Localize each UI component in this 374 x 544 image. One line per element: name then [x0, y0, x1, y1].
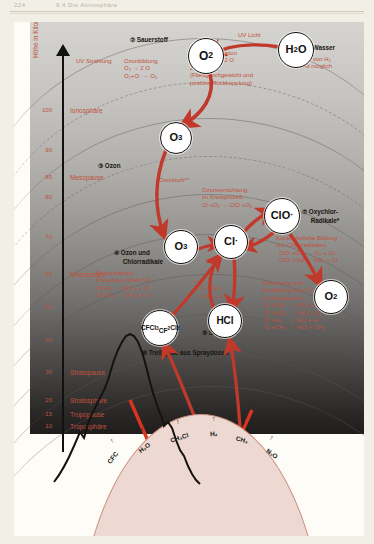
axis-tick-50: 50	[36, 304, 52, 310]
emission-arrow-icon: ↑	[212, 415, 216, 422]
annotation-hcl-oh: +++ HCl + OH· → H₂O + Cl·	[194, 278, 228, 300]
page-folio: 224	[14, 2, 26, 8]
molecule-clo-radical: ClO·	[264, 198, 300, 234]
page-header: 224 9.4 Die Atmosphäre	[0, 0, 374, 20]
axis-tick-70: 70	[36, 234, 52, 240]
layer-label-mesopause: Mesopause	[70, 174, 104, 181]
annotation-ozonbildung: Ozonbildung O₂ → 2 O O₂+O → O₃	[124, 58, 158, 80]
axis-tick-100: 100	[36, 107, 52, 113]
molecule-o3-upper: O3	[160, 122, 192, 154]
layer-label-troposphaere: Troposphäre	[70, 423, 107, 430]
annotation-uv-strahlung: UV Strahlung	[76, 58, 112, 65]
axis-tick-60: 60	[36, 271, 52, 277]
axis-tick-40: 40	[36, 337, 52, 343]
axis-tick-15: 15	[36, 411, 52, 417]
header-rule-thin	[10, 13, 364, 14]
axis-tick-90: 90	[36, 147, 52, 153]
axis-tick-85: 85	[36, 174, 52, 180]
molecule-o2-right: O2	[314, 280, 348, 314]
axis-tick-30: 30	[36, 369, 52, 375]
axis-tick-80: 80	[36, 194, 52, 200]
caption-treibgase: ⑥ Treibgase aus Spraydosen	[142, 349, 229, 356]
ozone-cycle-figure: Höhe in Kilometern 100 90 85 80 70 60 50…	[14, 22, 364, 536]
axis-tick-10: 10	[36, 423, 52, 429]
caption-ozon-chlorradikale: ④ Ozon und Chlorradikale	[114, 249, 163, 266]
molecule-cfc: CFCl3CF2Cl2	[142, 310, 178, 346]
molecule-cl-radical: Cl·	[214, 225, 248, 259]
caption-ozon: ③ Ozon	[98, 162, 121, 169]
molecule-h2o: H2O	[278, 32, 314, 68]
annotation-uv-licht: UV Licht	[238, 32, 261, 39]
layer-label-stratopause: Stratopause	[70, 369, 105, 376]
layer-label-ionosphaere: Ionosphäre	[70, 107, 103, 114]
annotation-ozonvernichtung: Ozonvernichtung im Kreisprozeß Cl·+O₃ → …	[202, 187, 252, 209]
caption-oxychlor: ⑦ Oxychlor- Radikale*	[302, 208, 339, 225]
layer-label-tropopause: Tropopause	[70, 411, 104, 418]
running-title: 9.4 Die Atmosphäre	[56, 2, 118, 8]
caption-sauerstoff: ② Sauerstoff	[130, 36, 168, 43]
axis-tick-20: 20	[36, 397, 52, 403]
annotation-ozonloch: Ozonloch**	[159, 177, 189, 184]
layer-label-stratosphaere: Stratosphäre	[70, 397, 107, 404]
annotation-kontinuierliche: Kontinuierliche Bildung von Chlorradikal…	[276, 235, 339, 265]
header-rule	[10, 11, 364, 12]
molecule-o3-lower: O3	[164, 230, 198, 264]
molecule-hcl: HCl	[208, 304, 242, 338]
axis-title: Höhe in Kilometern	[32, 22, 40, 58]
annotation-grundreaktion: Grundreaktion Photolyse mittels UV CFCl₃…	[96, 270, 154, 300]
emission-label-h2: H₂	[210, 430, 218, 438]
molecule-o2-top: O2	[188, 38, 224, 74]
height-axis	[62, 52, 64, 452]
